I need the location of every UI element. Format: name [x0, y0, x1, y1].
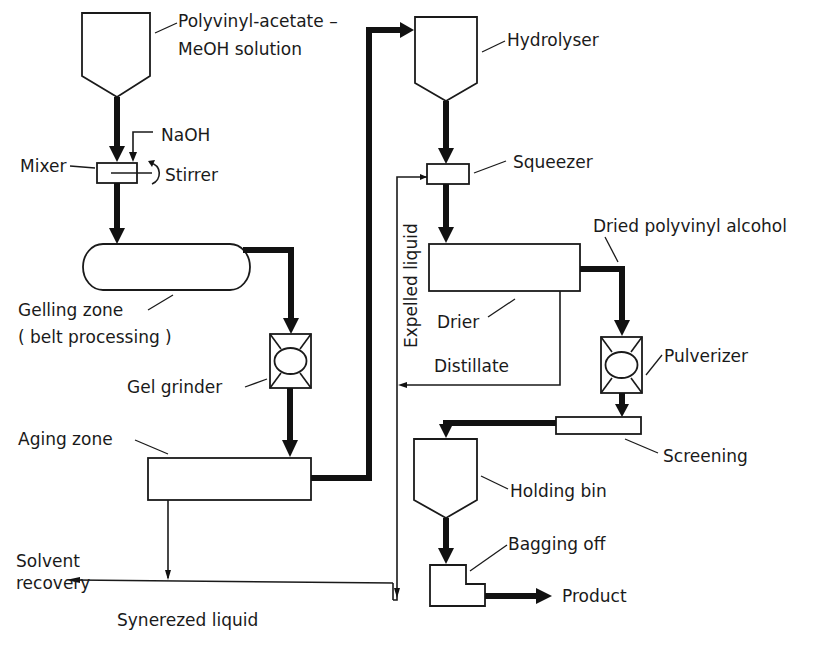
flow-screening-to-holding-bin [446, 423, 556, 430]
stirrer-label: Stirrer [165, 165, 218, 185]
arrowhead-icon [282, 440, 298, 457]
product-label: Product [562, 586, 627, 606]
pvac-label-line1: Polyvinyl-acetate – [178, 11, 338, 31]
gel-grinder-label: Gel grinder [127, 377, 222, 397]
screening-box [556, 417, 641, 434]
gelling-zone-belt [83, 244, 250, 290]
dried-pva-label: Dried polyvinyl alcohol [593, 216, 787, 236]
gelling-label-line1: Gelling zone [18, 300, 123, 320]
arrowhead-icon [398, 382, 407, 388]
pulverizer-label: Pulverizer [664, 346, 748, 366]
bagging-off-label: Bagging off [508, 534, 607, 554]
holding-bin-hopper [414, 439, 477, 518]
arrowhead-icon [283, 318, 299, 334]
gelling-label-line2: ( belt processing ) [18, 327, 172, 347]
synerezed-label: Synerezed liquid [117, 610, 258, 630]
pvac-leader [155, 23, 177, 33]
arrowhead-icon [438, 227, 454, 243]
drier-leader [488, 299, 515, 317]
hydrolyser-hopper [415, 17, 477, 101]
drier-label: Drier [437, 312, 479, 332]
mixer-label: Mixer [20, 156, 66, 176]
screening-label: Screening [663, 446, 748, 466]
arrowhead-icon [129, 152, 137, 162]
arrowhead-icon [536, 588, 552, 604]
flow-aging-to-hydrolyser [311, 30, 402, 478]
pvac-label-line2: MeOH solution [178, 39, 302, 59]
arrowhead-icon [420, 174, 427, 180]
expelled-liquid-label: Expelled liquid [401, 223, 421, 348]
arrowhead-icon [438, 148, 454, 164]
arrowhead-icon [109, 228, 125, 244]
pvac-feed-hopper [82, 13, 150, 97]
distillate-label: Distillate [434, 356, 509, 376]
squeezer-label: Squeezer [513, 152, 593, 172]
arrowhead-icon [438, 548, 454, 564]
arrowhead-icon [615, 404, 629, 417]
mixer-leader [70, 166, 95, 168]
aging-zone-label: Aging zone [18, 429, 113, 449]
solvent-label-line2: recovery [16, 573, 90, 593]
arrowhead-icon [165, 570, 171, 580]
arrowhead-icon [439, 424, 453, 438]
bagging-off-box [430, 565, 485, 606]
squeezer-leader [474, 161, 506, 173]
arrowhead-icon [394, 588, 400, 598]
gel-grinder-leader [245, 379, 267, 387]
flow-gelling-to-grinder [243, 250, 291, 320]
arrowhead-icon [109, 146, 125, 162]
arrowhead-icon [400, 22, 414, 38]
solvent-label-line1: Solvent [16, 551, 80, 571]
pulverizer-icon [601, 337, 642, 393]
hydrolyser-label: Hydrolyser [507, 30, 599, 50]
naoh-label: NaOH [161, 125, 210, 145]
squeezer-box [427, 164, 469, 184]
pulverizer-leader [646, 355, 662, 375]
process-flow-diagram: Polyvinyl-acetate – MeOH solution NaOH M… [0, 0, 824, 649]
arrowhead-icon [614, 320, 630, 336]
bagging-leader [470, 545, 507, 571]
dried-pva-leader [605, 237, 618, 262]
drier-box [429, 244, 580, 291]
holding-bin-label: Holding bin [510, 481, 607, 501]
holding-bin-leader [481, 476, 508, 489]
hydrolyser-leader [482, 41, 505, 52]
gelling-leader [148, 295, 173, 310]
screening-leader [625, 439, 658, 453]
flow-drier-to-pulverizer [580, 269, 622, 322]
solvent-recovery-line [75, 580, 393, 583]
gel-grinder-icon [270, 334, 311, 388]
aging-zone-box [148, 458, 311, 500]
aging-leader [135, 440, 168, 454]
